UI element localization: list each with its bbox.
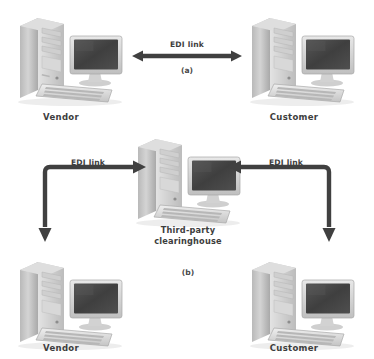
edi-link-label-b-left: EDI link [71,158,105,167]
edi-link-arrow-a [132,48,242,64]
computer-workstation-icon [244,256,362,352]
edi-diagram: Vendor [0,0,374,359]
clearinghouse-label-line1: Third-party [154,225,222,236]
computer-workstation-icon [244,12,362,108]
computer-workstation-icon [12,256,130,352]
part-caption-b: (b) [182,268,194,277]
edi-link-arrow-b-left [38,158,148,244]
node-label-customer-b: Customer [270,343,318,354]
edi-link-arrow-b-right [226,158,336,244]
edi-link-label-b-right: EDI link [269,158,303,167]
node-label-clearinghouse: Third-party clearinghouse [154,225,222,246]
computer-workstation-icon [12,12,130,108]
clearinghouse-label-line2: clearinghouse [154,236,222,247]
node-label-vendor-b: Vendor [43,343,79,354]
part-caption-a: (a) [181,66,193,75]
edi-link-label-a: EDI link [170,40,204,49]
node-label-vendor-a: Vendor [43,112,79,123]
node-label-customer-a: Customer [270,112,318,123]
